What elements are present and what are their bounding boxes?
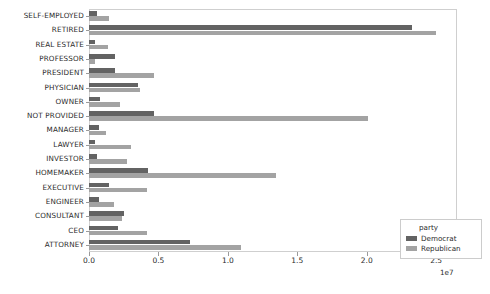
y-tick-label: PROFESSOR (0, 54, 84, 63)
bar-democrat (89, 111, 154, 116)
y-tick-label: EXECUTIVE (0, 183, 84, 192)
bar-group: PROFESSOR (0, 52, 490, 66)
bar-democrat (89, 197, 99, 202)
bar-group: EXECUTIVE (0, 181, 490, 195)
bar-republican (89, 131, 106, 136)
bar-group: INVESTOR (0, 152, 490, 166)
bar-democrat (89, 140, 95, 145)
y-tick-label: NOT PROVIDED (0, 111, 84, 120)
legend-swatch-democrat (406, 236, 417, 242)
bar-democrat (89, 183, 109, 188)
legend-label-democrat: Democrat (421, 234, 457, 243)
bar-republican (89, 245, 241, 250)
bar-republican (89, 188, 147, 193)
x-tick-label: 1.5 (277, 256, 317, 265)
bar-republican (89, 202, 114, 207)
bar-group: ENGINEER (0, 195, 490, 209)
y-tick-label: CEO (0, 226, 84, 235)
bar-democrat (89, 11, 97, 16)
x-tick-mark (367, 252, 368, 256)
x-tick-mark (228, 252, 229, 256)
bar-democrat (89, 154, 97, 159)
bar-republican (89, 59, 95, 64)
x-axis-offset-text: 1e7 (440, 268, 454, 277)
y-tick-label: ATTORNEY (0, 240, 84, 249)
x-tick-label: 0.0 (69, 256, 109, 265)
y-tick-label: PRESIDENT (0, 68, 84, 77)
x-tick-mark (89, 252, 90, 256)
bar-group: PHYSICIAN (0, 80, 490, 94)
bar-group: LAWYER (0, 138, 490, 152)
x-tick-mark (158, 252, 159, 256)
bar-republican (89, 31, 436, 36)
bar-republican (89, 145, 131, 150)
bar-democrat (89, 226, 118, 231)
y-tick-label: OWNER (0, 97, 84, 106)
bar-group: NOT PROVIDED (0, 109, 490, 123)
y-tick-label: MANAGER (0, 125, 84, 134)
bar-republican (89, 16, 109, 21)
legend: party Democrat Republican (400, 219, 482, 259)
bar-rows: SELF-EMPLOYEDRETIREDREAL ESTATEPROFESSOR… (0, 9, 490, 252)
bar-democrat (89, 68, 115, 73)
legend-label-republican: Republican (421, 244, 461, 253)
bar-democrat (89, 240, 190, 245)
y-tick-label: HOMEMAKER (0, 168, 84, 177)
bar-democrat (89, 54, 115, 59)
y-tick-label: CONSULTANT (0, 211, 84, 220)
x-tick-label: 1.0 (208, 256, 248, 265)
y-tick-label: RETIRED (0, 25, 84, 34)
bar-group: MANAGER (0, 123, 490, 137)
bar-group: REAL ESTATE (0, 38, 490, 52)
legend-title: party (419, 223, 476, 232)
bar-democrat (89, 25, 412, 30)
bar-republican (89, 73, 154, 78)
bar-democrat (89, 125, 99, 130)
bar-group: OWNER (0, 95, 490, 109)
bar-republican (89, 45, 108, 50)
legend-item-democrat: Democrat (406, 234, 476, 243)
bar-democrat (89, 40, 95, 45)
bar-republican (89, 88, 140, 93)
legend-item-republican: Republican (406, 244, 476, 253)
y-tick-label: LAWYER (0, 140, 84, 149)
legend-swatch-republican (406, 246, 417, 252)
y-tick-label: ENGINEER (0, 197, 84, 206)
bar-chart: contbr_occupation SELF-EMPLOYEDRETIREDRE… (0, 0, 490, 294)
y-tick-label: SELF-EMPLOYED (0, 11, 84, 20)
bar-democrat (89, 168, 148, 173)
bar-democrat (89, 97, 100, 102)
bar-republican (89, 216, 122, 221)
bar-group: HOMEMAKER (0, 166, 490, 180)
bar-democrat (89, 83, 138, 88)
bar-democrat (89, 211, 124, 216)
x-tick-label: 2.0 (347, 256, 387, 265)
y-tick-label: INVESTOR (0, 154, 84, 163)
x-tick-label: 0.5 (138, 256, 178, 265)
y-tick-label: REAL ESTATE (0, 40, 84, 49)
y-tick-label: PHYSICIAN (0, 83, 84, 92)
bar-republican (89, 173, 276, 178)
bar-group: PRESIDENT (0, 66, 490, 80)
bar-republican (89, 102, 120, 107)
bar-group: SELF-EMPLOYED (0, 9, 490, 23)
x-tick-mark (297, 252, 298, 256)
bar-republican (89, 116, 368, 121)
bar-republican (89, 231, 147, 236)
bar-group: RETIRED (0, 23, 490, 37)
bar-republican (89, 159, 127, 164)
